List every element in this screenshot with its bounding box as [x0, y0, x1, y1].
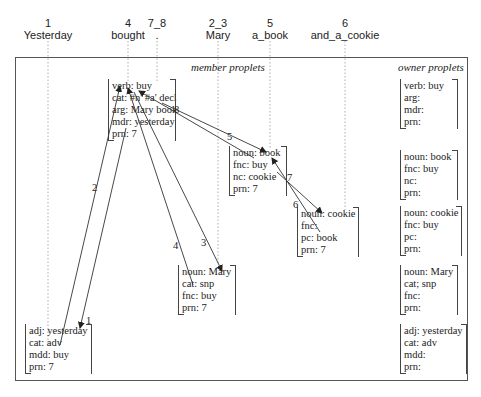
edge-label-6: 6 — [293, 199, 298, 210]
edge-label-2: 2 — [92, 182, 97, 193]
edge-2-arrow — [60, 86, 120, 345]
edge-6-arrow — [277, 172, 322, 213]
edge-label-8: 8 — [174, 104, 179, 115]
edge-arrows — [0, 0, 481, 397]
edge-7-arrow — [272, 158, 320, 232]
edge-label-1: 1 — [86, 315, 91, 326]
edge-4-arrow — [128, 88, 193, 285]
edge-label-3: 3 — [201, 237, 206, 248]
edge-label-5: 5 — [227, 131, 232, 142]
edge-label-7: 7 — [287, 172, 292, 183]
edge-label-4: 4 — [173, 240, 178, 251]
edge-8-arrow — [139, 91, 254, 158]
